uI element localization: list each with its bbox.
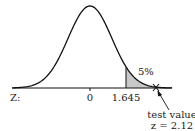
arrow-icon (158, 91, 169, 110)
axis-label: Z: (10, 92, 20, 103)
tick-label-critical: 1.645 (112, 92, 141, 103)
test-value-label: test value (147, 109, 195, 120)
tick-label-zero: 0 (87, 92, 93, 103)
test-value-z-label: z = 2.12 (151, 120, 193, 131)
area-label: 5% (138, 66, 154, 77)
normal-distribution-chart: Z: 0 1.645 5% test value z = 2.12 (0, 0, 195, 131)
